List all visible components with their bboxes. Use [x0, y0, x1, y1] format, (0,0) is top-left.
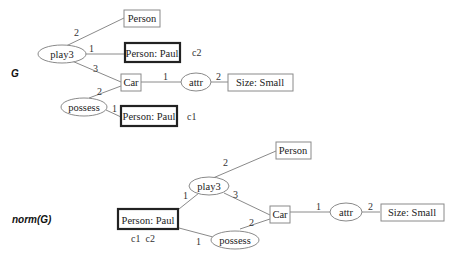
graph-title: G — [11, 68, 19, 79]
arg-label: 1 — [316, 201, 321, 212]
concept-person-paul[interactable]: Person: Paul — [118, 209, 178, 229]
concept-person-paul-c1[interactable]: Person: Paul — [121, 106, 177, 126]
coreference-label: c1 c2 — [131, 233, 155, 244]
svg-text:Person: Paul: Person: Paul — [126, 48, 179, 59]
svg-text:Person: Person — [128, 13, 157, 24]
concept-size-small[interactable]: Size: Small — [228, 74, 293, 91]
relation-attr[interactable]: attr — [181, 73, 211, 91]
svg-text:play3: play3 — [50, 49, 73, 60]
relation-play3[interactable]: play3 — [38, 45, 86, 63]
graph-norm-g: norm(G) 2 1 3 1 2 2 1 play3 attr possess — [12, 142, 444, 249]
arg-label: 2 — [216, 71, 221, 82]
concept-person[interactable]: Person — [276, 142, 311, 159]
graph-title: norm(G) — [12, 214, 52, 225]
concept-car[interactable]: Car — [121, 74, 141, 91]
arg-label: 3 — [233, 189, 238, 200]
edge-play3-car — [224, 193, 270, 215]
svg-text:Size: Small: Size: Small — [388, 207, 436, 218]
svg-text:Car: Car — [123, 77, 139, 88]
concept-car[interactable]: Car — [270, 206, 290, 223]
svg-text:Person: Paul: Person: Paul — [122, 215, 175, 226]
arg-label: 1 — [183, 190, 188, 201]
edge-play3-paul — [179, 193, 199, 209]
edge-possess-car — [240, 219, 270, 229]
relation-possess[interactable]: possess — [211, 231, 259, 249]
arg-label: 2 — [223, 157, 228, 168]
relation-possess[interactable]: possess — [61, 98, 107, 116]
arg-label: 2 — [368, 201, 373, 212]
concept-size-small[interactable]: Size: Small — [381, 204, 444, 221]
arg-label: 3 — [93, 63, 98, 74]
edge-play3-person — [206, 151, 276, 181]
svg-text:possess: possess — [68, 102, 100, 113]
svg-text:possess: possess — [219, 235, 251, 246]
arg-label: 2 — [74, 27, 79, 38]
svg-text:play3: play3 — [197, 181, 220, 192]
svg-text:Car: Car — [272, 209, 288, 220]
arg-label: 2 — [97, 86, 102, 97]
concept-person[interactable]: Person — [124, 10, 160, 27]
edge-possess-car — [89, 86, 121, 98]
conceptual-graphs-diagram: G 2 1 3 1 2 2 1 play3 attr possess — [0, 0, 455, 256]
concept-person-paul-c2[interactable]: Person: Paul — [125, 43, 180, 62]
arg-label: 1 — [89, 43, 94, 54]
coreference-label: c1 — [187, 111, 196, 122]
relation-play3[interactable]: play3 — [189, 177, 229, 195]
svg-text:attr: attr — [189, 77, 203, 88]
svg-text:Person: Person — [279, 145, 308, 156]
arg-label: 1 — [112, 103, 117, 114]
graph-g: G 2 1 3 1 2 2 1 play3 attr possess — [11, 10, 293, 126]
coreference-label: c2 — [192, 47, 201, 58]
svg-text:Person: Paul: Person: Paul — [123, 111, 176, 122]
arg-label: 1 — [196, 236, 201, 247]
relation-attr[interactable]: attr — [330, 203, 362, 221]
arg-label: 2 — [249, 217, 254, 228]
svg-text:Size: Small: Size: Small — [236, 77, 284, 88]
svg-text:attr: attr — [339, 207, 353, 218]
arg-label: 1 — [163, 71, 168, 82]
